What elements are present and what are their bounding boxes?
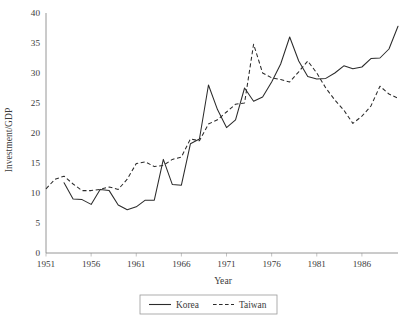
series-line-korea [64, 26, 398, 210]
legend-label-taiwan: Taiwan [239, 300, 267, 310]
y-axis-title: Investment/GDP [3, 108, 14, 173]
x-axis-ticks: 19511956196119661971197619811986 [37, 253, 372, 269]
y-axis-ticks: 0510152025303540 [31, 8, 41, 258]
y-tick-label: 0 [35, 248, 40, 258]
x-tick-label: 1951 [37, 259, 56, 269]
x-tick-label: 1971 [217, 259, 236, 269]
x-tick-label: 1986 [353, 259, 372, 269]
x-tick-label: 1961 [127, 259, 146, 269]
figure-container: 0510152025303540 19511956196119661971197… [0, 0, 407, 326]
y-tick-label: 35 [31, 38, 41, 48]
y-tick-label: 15 [31, 158, 41, 168]
y-tick-label: 20 [31, 128, 41, 138]
y-tick-label: 5 [35, 218, 40, 228]
y-tick-label: 40 [31, 8, 41, 18]
x-tick-label: 1981 [308, 259, 327, 269]
x-tick-label: 1956 [82, 259, 101, 269]
x-tick-label: 1976 [262, 259, 281, 269]
chart-legend: Korea Taiwan [140, 295, 277, 314]
investment-gdp-line-chart: 0510152025303540 19511956196119661971197… [0, 0, 407, 326]
legend-label-korea: Korea [176, 300, 200, 310]
y-tick-label: 30 [31, 68, 41, 78]
x-tick-label: 1966 [172, 259, 191, 269]
y-tick-label: 10 [31, 188, 41, 198]
y-tick-label: 25 [31, 98, 41, 108]
x-axis-title: Year [214, 275, 232, 286]
